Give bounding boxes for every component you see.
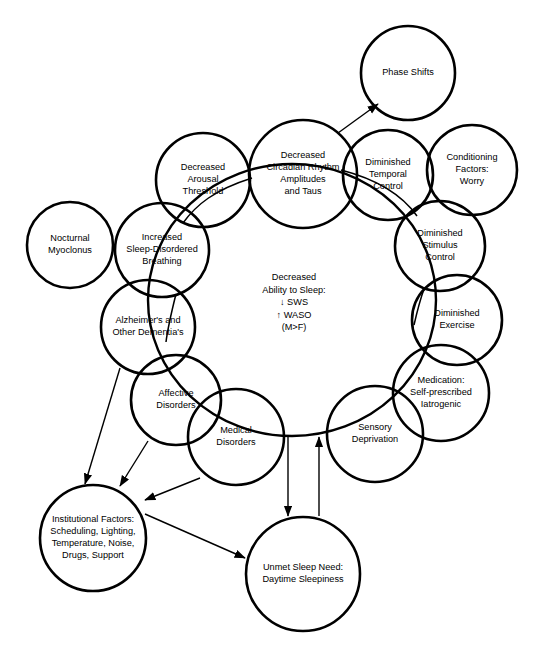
label-line: Threshold bbox=[183, 186, 224, 196]
label-line: Breathing bbox=[142, 256, 181, 266]
hub-label: DecreasedAbility to Sleep:↓ SWS↑ WASO(M>… bbox=[262, 272, 325, 332]
hub-label-line: Ability to Sleep: bbox=[262, 285, 325, 295]
node-conditioning-factors-worry[interactable]: ConditioningFactors:Worry bbox=[427, 125, 517, 215]
label-line: Myoclonus bbox=[48, 245, 92, 255]
affective-disorders-label: AffectiveDisorders bbox=[156, 388, 196, 410]
diagram-canvas: Phase ShiftsDecreasedCircadian RhythmAmp… bbox=[0, 0, 539, 647]
node-medication-self-prescribed[interactable]: Medication:Self-prescribedIatrogenic bbox=[393, 345, 489, 441]
sensory-deprivation-label: SensoryDeprivation bbox=[352, 422, 398, 444]
arrow-institutional-to-unmet bbox=[145, 514, 245, 558]
node-group: Phase ShiftsDecreasedCircadian RhythmAmp… bbox=[27, 26, 517, 631]
hub-label-line: ↓ SWS bbox=[280, 297, 308, 307]
label-line: Conditioning bbox=[446, 152, 497, 162]
arrow-dementia-to-institutional bbox=[85, 368, 120, 484]
label-line: Iatrogenic bbox=[421, 399, 462, 409]
label-line: Other Dementia's bbox=[112, 327, 184, 337]
label-line: Diminished bbox=[365, 157, 410, 167]
nocturnal-myoclonus-label: NocturnalMyoclonus bbox=[48, 233, 92, 255]
node-institutional-factors[interactable]: Institutional Factors:Scheduling, Lighti… bbox=[40, 485, 146, 591]
label-line: Medical bbox=[220, 425, 252, 435]
sleep-cycle-diagram: Phase ShiftsDecreasedCircadian RhythmAmp… bbox=[0, 0, 539, 647]
label-line: Worry bbox=[460, 176, 485, 186]
node-decreased-circadian-rhythm[interactable]: DecreasedCircadian RhythmAmplitudesand T… bbox=[249, 120, 357, 228]
label-line: Temporal bbox=[369, 169, 407, 179]
medication-self-prescribed-label: Medication:Self-prescribedIatrogenic bbox=[410, 375, 472, 409]
label-line: Amplitudes bbox=[280, 174, 326, 184]
diminished-exercise-label: DiminishedExercise bbox=[434, 308, 479, 330]
institutional-factors-label: Institutional Factors:Scheduling, Lighti… bbox=[50, 514, 135, 560]
label-line: Phase Shifts bbox=[382, 67, 434, 77]
label-line: Stimulus bbox=[422, 240, 458, 250]
diminished-stimulus-control-label: DiminishedStimulusControl bbox=[417, 228, 462, 262]
node-decreased-arousal-threshold[interactable]: DecreasedArousalThreshold bbox=[156, 133, 250, 227]
label-line: Unmet Sleep Need: bbox=[263, 562, 343, 572]
label-line: Affective bbox=[158, 388, 193, 398]
label-line: Sleep-Disordered bbox=[126, 244, 198, 254]
label-line: and Taus bbox=[284, 186, 322, 196]
hub-label-line: ↑ WASO bbox=[277, 310, 312, 320]
unmet-sleep-need-label: Unmet Sleep Need:Daytime Sleepiness bbox=[262, 562, 344, 584]
decreased-circadian-rhythm-label: DecreasedCircadian RhythmAmplitudesand T… bbox=[266, 150, 339, 196]
label-line: Circadian Rhythm bbox=[266, 162, 339, 172]
label-line: Daytime Sleepiness bbox=[262, 574, 344, 584]
label-line: Exercise bbox=[439, 320, 474, 330]
label-line: Medication: bbox=[418, 375, 465, 385]
phase-shifts-label: Phase Shifts bbox=[382, 67, 434, 77]
decreased-arousal-threshold-label: DecreasedArousalThreshold bbox=[181, 162, 225, 196]
increased-sleep-disordered-breathing-label: IncreasedSleep-DisorderedBreathing bbox=[126, 232, 198, 266]
arrow-circadian-to-phase-shifts bbox=[338, 104, 378, 133]
alzheimers-and-other-dementias-label: Alzheimer's andOther Dementia's bbox=[112, 315, 184, 337]
conditioning-factors-worry-label: ConditioningFactors:Worry bbox=[446, 152, 497, 186]
label-line: Self-prescribed bbox=[410, 387, 472, 397]
label-line: Disorders bbox=[156, 400, 196, 410]
hub-label-line: Decreased bbox=[272, 272, 316, 282]
label-line: Disorders bbox=[216, 437, 256, 447]
label-line: Nocturnal bbox=[50, 233, 89, 243]
label-line: Institutional Factors: bbox=[52, 514, 134, 524]
label-line: Diminished bbox=[417, 228, 462, 238]
label-line: Increased bbox=[142, 232, 182, 242]
label-line: Decreased bbox=[281, 150, 325, 160]
label-line: Factors: bbox=[455, 164, 488, 174]
label-line: Control bbox=[373, 181, 403, 191]
arrow-medical-to-institutional bbox=[145, 478, 200, 500]
node-sensory-deprivation[interactable]: SensoryDeprivation bbox=[327, 386, 423, 482]
label-line: Arousal bbox=[187, 174, 218, 184]
label-line: Control bbox=[425, 252, 455, 262]
label-line: Alzheimer's and bbox=[115, 315, 180, 325]
hub-text-group: DecreasedAbility to Sleep:↓ SWS↑ WASO(M>… bbox=[262, 272, 325, 332]
label-line: Drugs, Support bbox=[62, 550, 124, 560]
arrow-affective-to-institutional bbox=[120, 441, 148, 486]
label-line: Deprivation bbox=[352, 434, 398, 444]
label-line: Sensory bbox=[358, 422, 392, 432]
node-nocturnal-myoclonus[interactable]: NocturnalMyoclonus bbox=[27, 202, 113, 288]
label-line: Temperature, Noise, bbox=[52, 538, 135, 548]
label-line: Scheduling, Lighting, bbox=[50, 526, 135, 536]
node-unmet-sleep-need[interactable]: Unmet Sleep Need:Daytime Sleepiness bbox=[246, 517, 360, 631]
medical-disorders-label: MedicalDisorders bbox=[216, 425, 256, 447]
label-line: Diminished bbox=[434, 308, 479, 318]
label-line: Decreased bbox=[181, 162, 225, 172]
hub-label-line: (M>F) bbox=[282, 322, 307, 332]
